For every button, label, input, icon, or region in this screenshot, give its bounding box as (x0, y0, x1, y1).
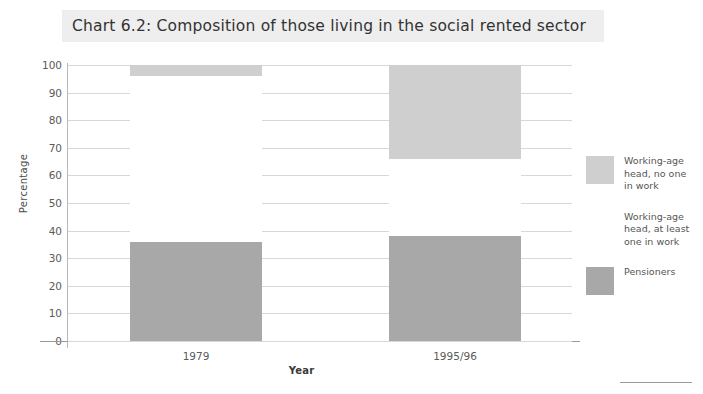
x-axis-tick-label: 1979 (136, 350, 256, 362)
x-axis-tick-label: 1995/96 (395, 350, 515, 362)
x-axis-title: Year (0, 365, 703, 376)
y-axis-tick-label: 90 (28, 87, 62, 99)
y-axis-tick-label: 40 (28, 225, 62, 237)
bar-segment[interactable] (389, 65, 521, 159)
chart-title: Chart 6.2: Composition of those living i… (62, 10, 604, 42)
legend-swatch (586, 212, 614, 240)
bar-segment[interactable] (130, 242, 262, 341)
bar-group[interactable] (389, 65, 521, 341)
bar-segment[interactable] (130, 65, 262, 76)
y-axis-tick-label: 10 (28, 307, 62, 319)
legend-label: Pensioners (624, 266, 698, 279)
bar-group[interactable] (130, 65, 262, 341)
y-axis-tick-label: 80 (28, 114, 62, 126)
legend-item[interactable]: Pensioners (586, 266, 698, 300)
y-axis-tick-label: 60 (28, 169, 62, 181)
bar-segment[interactable] (389, 236, 521, 341)
y-axis-tick-labels: 1009080706050403020100 (22, 65, 62, 341)
bar-segment[interactable] (130, 76, 262, 242)
gridline (68, 341, 572, 342)
legend-label: Working-age head, at least one in work (624, 211, 698, 249)
y-axis-tick-label: 50 (28, 197, 62, 209)
plot-area (68, 65, 572, 341)
y-axis-tick-label: 100 (28, 59, 62, 71)
legend-swatch (586, 267, 614, 295)
chart-legend: Working-age head, no one in workWorking-… (586, 155, 698, 318)
bar-segment[interactable] (389, 159, 521, 236)
y-axis-tick-label: 20 (28, 280, 62, 292)
y-axis-tick-label: 30 (28, 252, 62, 264)
legend-item[interactable]: Working-age head, at least one in work (586, 211, 698, 249)
footer-rule (620, 382, 692, 383)
legend-label: Working-age head, no one in work (624, 155, 698, 193)
legend-item[interactable]: Working-age head, no one in work (586, 155, 698, 193)
legend-swatch (586, 156, 614, 184)
x-axis-title-text: Year (289, 365, 315, 376)
y-axis-tick-label: 70 (28, 142, 62, 154)
